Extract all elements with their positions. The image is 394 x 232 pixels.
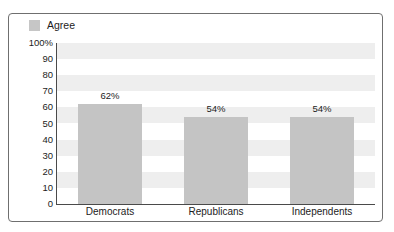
cropped-title: PUBLIC RESPONSE TO THE NEW PROPOSAL <box>8 0 308 3</box>
y-axis-tick-label: 0 <box>48 199 53 209</box>
x-axis-tick-label: Independents <box>292 207 353 217</box>
y-axis-line <box>56 43 57 205</box>
bar <box>184 117 248 204</box>
x-axis-labels: DemocratsRepublicansIndependents <box>57 207 375 223</box>
y-axis-tick-label: 70 <box>42 87 53 97</box>
bar <box>290 117 354 204</box>
bar-value-label: 54% <box>206 104 225 114</box>
x-axis-tick-label: Democrats <box>86 207 134 217</box>
bar-value-label: 54% <box>312 104 331 114</box>
bar <box>78 104 142 204</box>
bar-series-agree: 62%54%54% <box>57 43 375 204</box>
y-axis-tick-label: 80 <box>42 70 53 80</box>
bar-value-label: 62% <box>100 91 119 101</box>
y-axis-tick-label: 10 <box>42 183 53 193</box>
chart-frame: Agree 0102030405060708090100% 62%54%54% … <box>8 13 383 222</box>
chart-legend: Agree <box>29 19 75 31</box>
y-axis-labels: 0102030405060708090100% <box>9 43 53 204</box>
y-axis-tick-label: 30 <box>42 151 53 161</box>
y-axis-tick-label: 40 <box>42 135 53 145</box>
plot-area: 62%54%54% <box>57 43 375 204</box>
y-axis-tick-label: 100% <box>29 38 53 48</box>
y-axis-tick-label: 90 <box>42 54 53 64</box>
y-axis-tick-label: 20 <box>42 167 53 177</box>
y-axis-tick-label: 50 <box>42 119 53 129</box>
legend-label-agree: Agree <box>47 19 75 31</box>
x-axis-line <box>56 204 375 205</box>
legend-swatch-agree <box>29 20 40 31</box>
y-axis-tick-label: 60 <box>42 103 53 113</box>
x-axis-tick-label: Republicans <box>188 207 243 217</box>
